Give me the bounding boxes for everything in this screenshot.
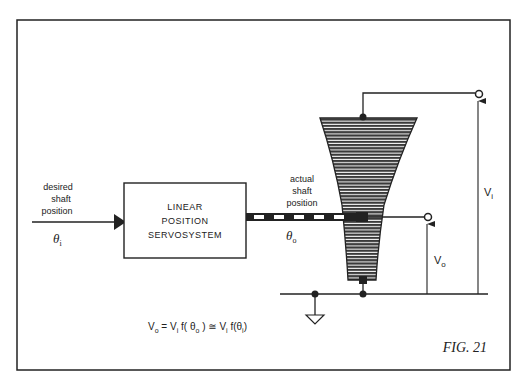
theta-i-label: θi <box>53 231 62 248</box>
output-label-line-2: shaft <box>292 186 312 196</box>
block-line-2: POSITION <box>161 216 208 226</box>
transfer-equation: Vo = Vi f( θo ) ≅ Vi f(θi) <box>148 321 247 334</box>
fig-21-diagram: desired shaft position θi LINEAR POSITIO… <box>0 0 527 385</box>
input-label-line-1: desired <box>43 182 73 192</box>
input-arrow <box>32 214 126 230</box>
vo-label: Vo <box>434 254 446 269</box>
input-label-line-3: position <box>41 206 72 216</box>
vi-terminal[interactable] <box>476 91 483 98</box>
block-line-3: SERVOSYSTEM <box>148 230 222 240</box>
output-shaft <box>246 212 368 222</box>
input-label-line-2: shaft <box>51 194 71 204</box>
ground-icon <box>306 315 324 324</box>
figure-frame <box>17 20 510 370</box>
block-line-1: LINEAR <box>167 202 203 212</box>
theta-o-label: θo <box>286 228 296 245</box>
pot-bottom-tab <box>359 276 367 284</box>
output-label-line-1: actual <box>290 174 314 184</box>
potentiometer-resistor <box>320 118 417 280</box>
vi-top-wire <box>363 93 475 117</box>
vo-terminal[interactable] <box>425 214 432 221</box>
vi-label: Vi <box>484 186 493 201</box>
figure-label: FIG. 21 <box>442 340 487 355</box>
output-label-line-3: position <box>286 198 317 208</box>
